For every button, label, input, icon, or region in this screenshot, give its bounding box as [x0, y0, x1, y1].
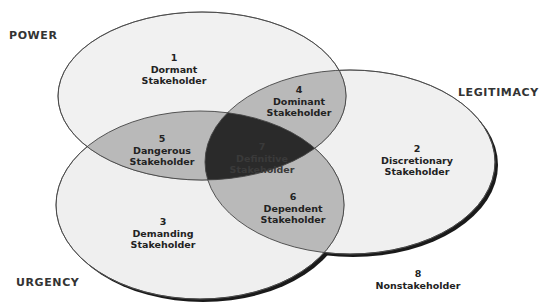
region-suffix: Stakeholder [381, 166, 453, 178]
region-name: Dormant [142, 64, 207, 76]
region-demanding: 3 Demanding Stakeholder [131, 216, 196, 251]
region-dangerous: 5 Dangerous Stakeholder [130, 133, 195, 168]
region-number: 2 [381, 143, 453, 155]
region-name: Demanding [131, 228, 196, 240]
region-suffix: Stakeholder [142, 75, 207, 87]
region-dependent: 6 Dependent Stakeholder [261, 191, 326, 226]
region-suffix: Stakeholder [261, 214, 326, 226]
region-number: 8 [376, 268, 461, 280]
legitimacy-label: LEGITIMACY [458, 86, 539, 99]
region-name: Dangerous [130, 145, 195, 157]
region-number: 7 [230, 141, 295, 153]
region-name: Definitive [230, 153, 295, 165]
region-number: 5 [130, 133, 195, 145]
region-number: 3 [131, 216, 196, 228]
power-label: POWER [9, 29, 58, 42]
region-definitive: 7 Definitive Stakeholder [230, 141, 295, 176]
region-nonstakeholder: 8 Nonstakeholder [376, 268, 461, 291]
region-discretionary: 2 Discretionary Stakeholder [381, 143, 453, 178]
region-suffix: Stakeholder [267, 107, 332, 119]
region-name: Discretionary [381, 155, 453, 167]
region-suffix: Stakeholder [230, 164, 295, 176]
region-dormant: 1 Dormant Stakeholder [142, 52, 207, 87]
region-dominant: 4 Dominant Stakeholder [267, 84, 332, 119]
region-number: 4 [267, 84, 332, 96]
region-suffix: Stakeholder [131, 239, 196, 251]
urgency-label: URGENCY [16, 276, 79, 289]
region-name: Dominant [267, 96, 332, 108]
region-number: 1 [142, 52, 207, 64]
region-name: Nonstakeholder [376, 280, 461, 292]
region-suffix: Stakeholder [130, 156, 195, 168]
region-number: 6 [261, 191, 326, 203]
region-name: Dependent [261, 203, 326, 215]
